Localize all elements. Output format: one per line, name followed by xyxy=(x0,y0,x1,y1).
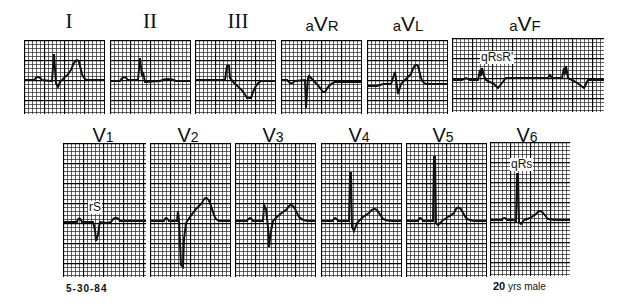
lead-label-aVR: aVR xyxy=(302,12,342,36)
ecg-trace-aVF xyxy=(452,38,604,112)
annotation-V6-qRs: qRs xyxy=(510,158,533,171)
annotation-aVF-qRsR: qRsR' xyxy=(480,51,514,64)
lead-label-I: I xyxy=(54,9,84,34)
ecg-panel-V1 xyxy=(63,143,146,277)
ecg-trace-V3 xyxy=(235,143,316,277)
patient-info: 20 yrs male xyxy=(493,280,546,292)
ecg-trace-V2 xyxy=(150,143,231,277)
ecg-panel-V4 xyxy=(321,143,402,277)
lead-label-III: III xyxy=(218,9,258,34)
ecg-trace-V4 xyxy=(321,143,402,277)
ecg-panel-V3 xyxy=(235,143,316,277)
lead-suffix: L xyxy=(415,17,423,34)
lead-label-aVF: aVF xyxy=(505,12,545,36)
ecg-trace-V5 xyxy=(406,143,487,277)
lead-prefix: a xyxy=(393,17,401,34)
lead-suffix: F xyxy=(532,17,541,34)
patient-sex: yrs male xyxy=(508,281,546,292)
ecg-panel-III xyxy=(195,40,276,114)
ecg-trace-I xyxy=(24,40,105,114)
ecg-panel-aVR xyxy=(281,40,362,114)
lead-main: V xyxy=(401,12,415,35)
lead-prefix: a xyxy=(305,17,313,34)
patient-age: 20 xyxy=(493,280,505,292)
lead-label-aVL: aVL xyxy=(388,12,428,36)
lead-suffix: R xyxy=(328,17,339,34)
lead-prefix: a xyxy=(509,17,517,34)
ecg-panel-I xyxy=(24,40,105,114)
ecg-trace-II xyxy=(110,40,191,114)
ecg-trace-V1 xyxy=(63,143,146,277)
recording-date: 5-30-84 xyxy=(66,283,107,294)
ecg-trace-aVL xyxy=(367,40,448,114)
ecg-panel-V2 xyxy=(150,143,231,277)
lead-label-II: II xyxy=(135,9,165,34)
ecg-panel-aVF xyxy=(452,38,604,112)
lead-main: V xyxy=(518,12,532,35)
ecg-trace-aVR xyxy=(281,40,362,114)
ecg-panel-V5 xyxy=(406,143,487,277)
ecg-panel-II xyxy=(110,40,191,114)
ecg-trace-III xyxy=(195,40,276,114)
ecg-panel-aVL xyxy=(367,40,448,114)
lead-main: V xyxy=(314,12,328,35)
annotation-V1-rS: rS xyxy=(88,201,102,214)
